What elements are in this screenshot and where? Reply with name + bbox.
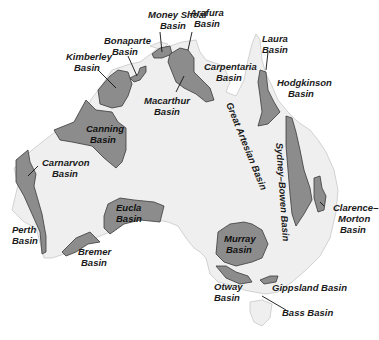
label-bremer-1: Bremer	[78, 246, 113, 257]
label-bonaparte-2: Basin	[112, 46, 138, 57]
label-carpentaria-1: Carpentaria	[204, 61, 257, 72]
label-bonaparte-1: Bonaparte	[104, 35, 152, 46]
tasmania	[250, 300, 272, 326]
label-otway-1: Otway	[214, 281, 243, 292]
label-canning-1: Canning	[86, 123, 124, 134]
australia-basins-map: Money Shoal Basin Arafura Basin Bonapart…	[0, 0, 379, 340]
label-arafura-2: Basin	[194, 18, 220, 29]
label-carnarvon-1: Carnarvon	[42, 157, 90, 168]
label-arafura-1: Arafura	[189, 7, 224, 18]
label-macarthur-1: Macarthur	[144, 95, 191, 106]
label-hodgkinson-2: Basin	[288, 88, 314, 99]
label-eucla-1: Eucla	[116, 202, 141, 213]
label-kimberley-1: Kimberley	[66, 51, 113, 62]
label-hodgkinson-1: Hodgkinson	[277, 77, 332, 88]
label-kimberley-2: Basin	[74, 62, 100, 73]
label-money-shoal-2: Basin	[160, 20, 186, 31]
label-bremer-2: Basin	[81, 257, 107, 268]
label-perth-1: Perth	[12, 224, 36, 235]
label-otway-2: Basin	[214, 292, 240, 303]
label-laura-1: Laura	[262, 33, 288, 44]
label-carnarvon-2: Basin	[52, 168, 78, 179]
label-macarthur-2: Basin	[154, 106, 180, 117]
label-bass: Bass Basin	[282, 307, 333, 318]
label-murray-1: Murray	[224, 233, 256, 244]
label-clarence-2: Morton	[338, 213, 370, 224]
label-clarence-1: Clarence–	[333, 202, 379, 213]
label-gippsland: Gippsland Basin	[272, 282, 347, 293]
label-clarence-3: Basin	[340, 224, 366, 235]
label-canning-2: Basin	[90, 134, 116, 145]
label-murray-2: Basin	[226, 244, 252, 255]
label-laura-2: Basin	[262, 44, 288, 55]
label-perth-2: Basin	[12, 235, 38, 246]
label-carpentaria-2: Basin	[216, 72, 242, 83]
label-eucla-2: Basin	[116, 213, 142, 224]
